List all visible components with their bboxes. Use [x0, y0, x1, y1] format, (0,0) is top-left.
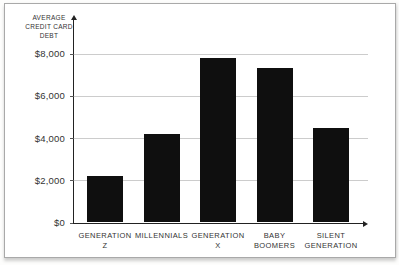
- y-tick-label-6000: $6,000: [10, 90, 65, 101]
- y-axis-tick-6000: [70, 96, 74, 97]
- category-label-line: GENERATION: [188, 231, 248, 241]
- y-axis-tick-8000: [70, 54, 74, 55]
- bar-baby-boomers: [257, 68, 293, 222]
- category-label-generation-z: GENERATIONZ: [75, 231, 135, 250]
- y-tick-label-4000: $4,000: [10, 133, 65, 144]
- category-label-line: GENERATION: [301, 241, 361, 251]
- category-label-line: Z: [75, 241, 135, 251]
- bar-generation-z: [87, 176, 123, 222]
- bar-generation-x: [200, 58, 236, 223]
- category-label-baby-boomers: BABYBOOMERS: [245, 231, 305, 250]
- category-label-line: GENERATION: [75, 231, 135, 241]
- category-label-line: SILENT: [301, 231, 361, 241]
- chart-frame: AVERAGE CREDIT CARD DEBT $8,000$6,000$4,…: [4, 3, 396, 258]
- y-axis-tick-4000: [70, 138, 74, 139]
- category-label-line: BOOMERS: [245, 241, 305, 251]
- gridline-8000: [73, 54, 368, 55]
- bar-silent-generation: [313, 128, 349, 222]
- y-tick-label-8000: $8,000: [10, 48, 65, 59]
- y-tick-label-2000: $2,000: [10, 175, 65, 186]
- category-label-generation-x: GENERATIONX: [188, 231, 248, 250]
- bar-millennials: [144, 134, 180, 223]
- category-label-silent-generation: SILENTGENERATION: [301, 231, 361, 250]
- y-axis-title: AVERAGE CREDIT CARD DEBT: [21, 13, 77, 40]
- category-label-line: X: [188, 241, 248, 251]
- category-label-line: MILLENNIALS: [132, 231, 192, 241]
- y-axis-title-line-2: CREDIT CARD: [21, 22, 77, 31]
- y-tick-label-0: $0: [10, 217, 65, 228]
- category-label-line: BABY: [245, 231, 305, 241]
- y-axis: [73, 20, 74, 223]
- category-label-millennials: MILLENNIALS: [132, 231, 192, 241]
- y-axis-title-line-3: DEBT: [21, 31, 77, 40]
- x-axis: [73, 223, 364, 224]
- y-axis-title-line-1: AVERAGE: [21, 13, 77, 22]
- y-axis-tick-2000: [70, 180, 74, 181]
- x-axis-arrow-icon: [363, 221, 368, 227]
